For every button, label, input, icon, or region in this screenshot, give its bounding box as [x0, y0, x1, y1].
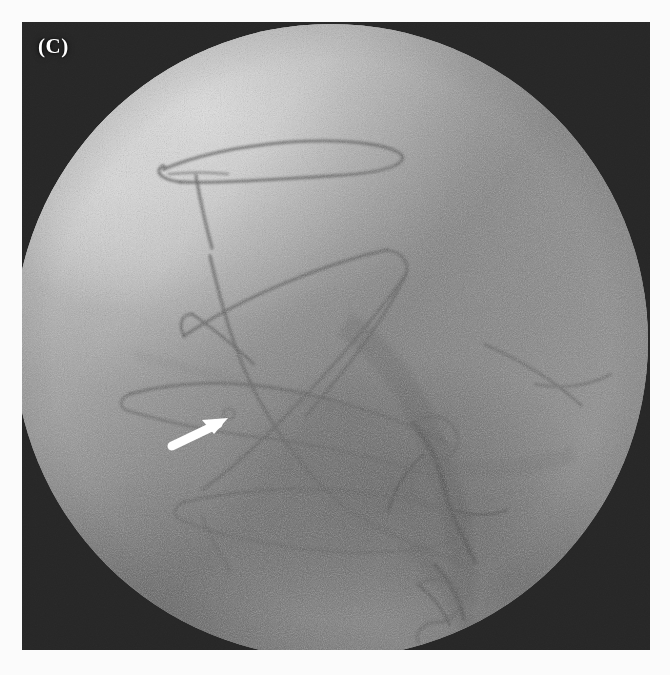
figure-root: (C)	[0, 0, 670, 675]
annotation-overlay	[22, 22, 650, 650]
roi-arrow	[172, 418, 228, 446]
radiograph-panel: (C)	[22, 22, 650, 650]
panel-label: (C)	[38, 34, 69, 59]
